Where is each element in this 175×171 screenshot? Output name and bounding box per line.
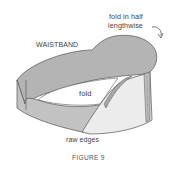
arrowhead-icon bbox=[158, 33, 163, 38]
label-fold-in-half: fold in half bbox=[109, 12, 143, 21]
label-waistband: WAISTBAND bbox=[36, 40, 78, 49]
label-fold: fold bbox=[79, 89, 92, 98]
label-raw-edges: raw edges bbox=[66, 135, 99, 144]
curved-arrow-icon bbox=[152, 27, 161, 36]
waistband-illustration bbox=[0, 0, 175, 171]
figure-caption: FIGURE 9 bbox=[72, 153, 105, 162]
label-lengthwise: lengthwise bbox=[108, 21, 143, 30]
waistband-diagram: fold in half lengthwise WAISTBAND fold r… bbox=[0, 0, 175, 171]
